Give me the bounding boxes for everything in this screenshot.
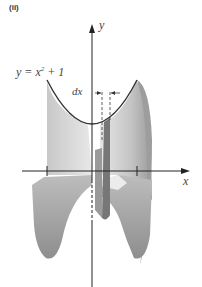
y-axis-arrowhead [89,24,95,33]
dx-label: dx [72,85,82,97]
panel-label: (ii) [9,3,19,12]
y-axis-label: y [99,18,104,33]
dx-arrowhead-left [97,91,101,95]
equation-label: y = x2 + 1 [16,65,64,80]
solid-lower [32,175,92,259]
equation-prefix: y = x [16,65,41,79]
x-axis-label: x [183,174,188,189]
solid-of-revolution-diagram [0,0,202,287]
equation-suffix: + 1 [44,65,64,79]
dx-arrowhead-right [111,91,115,95]
shell-inner [95,148,102,218]
solid-upper-left [47,82,92,175]
